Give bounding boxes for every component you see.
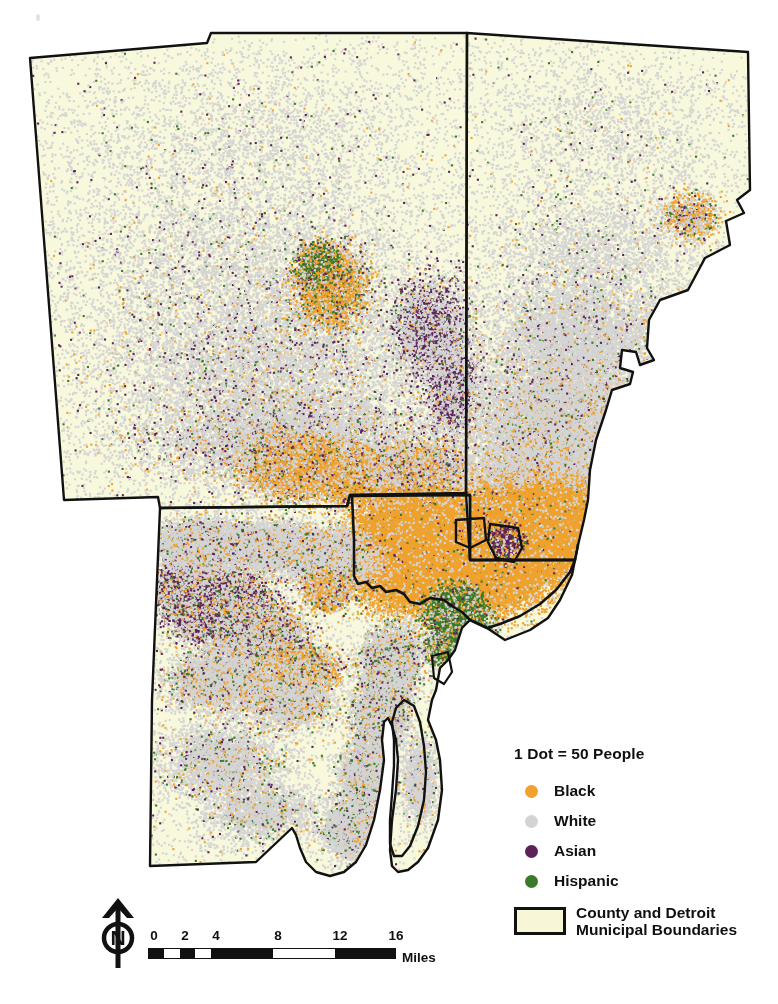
north-arrow-letter: N (110, 926, 125, 949)
dot-icon-hispanic (525, 875, 538, 888)
legend-item-black: Black (508, 776, 774, 806)
legend-item-asian: Asian (508, 836, 774, 866)
scale-tick-4: 4 (212, 928, 220, 943)
legend-label-boundary-line2: Municipal Boundaries (576, 921, 737, 938)
legend-swatch-black-cell (508, 785, 554, 798)
legend-swatch-hispanic-cell (508, 875, 554, 888)
scale-segment-white-3 (273, 949, 335, 958)
scan-artifact-speck (36, 14, 40, 21)
legend-label-boundary-line1: County and Detroit (576, 904, 716, 921)
boundary-swatch-icon (514, 907, 566, 935)
legend-item-boundary: County and Detroit Municipal Boundaries (508, 904, 774, 939)
scale-tick-12: 12 (332, 928, 347, 943)
legend-swatch-boundary-cell (508, 907, 572, 935)
scale-bar: 0 2 4 8 12 16 Miles (148, 928, 448, 974)
legend-label-asian: Asian (554, 842, 596, 860)
legend-swatch-white-cell (508, 815, 554, 828)
scale-bar-track (148, 948, 396, 959)
scale-tick-0: 0 (150, 928, 158, 943)
scale-bar-units: Miles (402, 950, 436, 965)
scale-segment-white-1 (164, 949, 180, 958)
legend-item-hispanic: Hispanic (508, 866, 774, 896)
dot-icon-black (525, 785, 538, 798)
scale-tick-2: 2 (181, 928, 189, 943)
legend-swatch-asian-cell (508, 845, 554, 858)
map-page: 1 Dot = 50 People Black White Asian Hisp… (0, 0, 778, 1004)
dot-icon-asian (525, 845, 538, 858)
legend-item-white: White (508, 806, 774, 836)
legend-label-hispanic: Hispanic (554, 872, 619, 890)
legend-title: 1 Dot = 50 People (514, 745, 774, 763)
scale-tick-16: 16 (388, 928, 403, 943)
map-legend: 1 Dot = 50 People Black White Asian Hisp… (508, 745, 774, 939)
dot-icon-white (525, 815, 538, 828)
north-arrow-icon: N (96, 896, 140, 974)
legend-label-boundary: County and Detroit Municipal Boundaries (576, 904, 737, 939)
scale-segment-white-2 (195, 949, 211, 958)
legend-label-white: White (554, 812, 596, 830)
legend-label-black: Black (554, 782, 595, 800)
scale-tick-8: 8 (274, 928, 282, 943)
